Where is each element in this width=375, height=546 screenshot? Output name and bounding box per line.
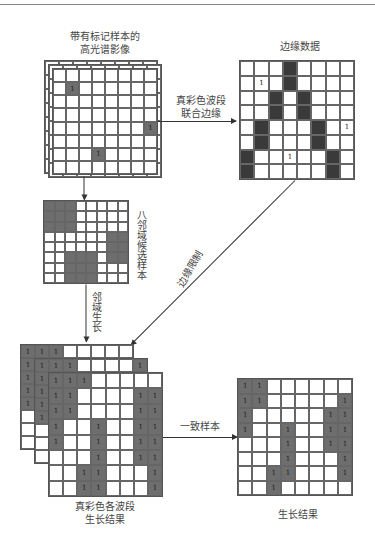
- grid-cell: [324, 394, 338, 409]
- grid-cell: [295, 379, 309, 394]
- grid-cell: 1: [134, 388, 148, 403]
- edge-arrow-label: 真彩色波段 联合边缘: [165, 94, 237, 120]
- bands-result-line1: 真彩色各波段: [40, 500, 170, 513]
- grid-cell: [66, 95, 79, 108]
- grid-cell: [134, 465, 148, 480]
- grid-cell: [283, 164, 297, 179]
- grid-cell: [252, 466, 266, 481]
- grid-cell: 1: [281, 466, 295, 481]
- grid-cell: [79, 122, 92, 135]
- grid-cell: [326, 105, 340, 120]
- grid-cell: 1: [133, 359, 147, 372]
- grid-cell: [120, 373, 134, 388]
- grid-cell: [283, 105, 297, 120]
- grid-cell: [120, 419, 134, 434]
- grid-cell: [118, 232, 129, 242]
- grid-cell: [91, 373, 105, 388]
- arrow-hsi-to-neighbor: [84, 177, 85, 200]
- grid-cell: [311, 76, 325, 91]
- grid-cell: [105, 161, 118, 174]
- grid-cell: 1: [340, 120, 354, 135]
- grid-cell: [65, 263, 76, 273]
- grid-cell: [105, 95, 118, 108]
- grid-cell: [295, 423, 309, 438]
- grid-cell: [53, 69, 66, 82]
- grid-cell: [254, 105, 268, 120]
- grid-cell: [35, 424, 49, 437]
- grid-cell: [53, 122, 66, 135]
- bands-result-title: 真彩色各波段 生长结果: [40, 500, 170, 526]
- grid-cell: [53, 95, 66, 108]
- grid-cell: [269, 105, 283, 120]
- grid-cell: [107, 252, 118, 262]
- grid-cell: [119, 359, 133, 372]
- grid-cell: 1: [238, 408, 252, 423]
- grid-cell: 1: [35, 398, 49, 411]
- grid-cell: [77, 419, 91, 434]
- grid-cell: [63, 450, 77, 465]
- grid-cell: 1: [49, 404, 63, 419]
- grid-cell: [44, 222, 55, 232]
- grid-cell: [66, 108, 79, 121]
- neighbor-grid: [43, 200, 129, 284]
- grid-cell: [324, 379, 338, 394]
- grid-cell: [254, 164, 268, 179]
- grid-cell: 1: [21, 397, 35, 410]
- grid-cell: 1: [49, 435, 63, 450]
- grid-cell: [86, 242, 97, 252]
- grid-cell: 1: [134, 419, 148, 434]
- grid-cell: [86, 232, 97, 242]
- grid-cell: [118, 95, 131, 108]
- grid-cell: [105, 108, 118, 121]
- grid-cell: [324, 452, 338, 467]
- grid-cell: [254, 120, 268, 135]
- grid-cell: [254, 150, 268, 165]
- region-growth-label: 邻域生长: [90, 292, 101, 332]
- grid-cell: [131, 122, 144, 135]
- grid-cell: [53, 135, 66, 148]
- grid-cell: 1: [63, 388, 77, 403]
- grid-cell: [326, 76, 340, 91]
- grid-cell: [309, 394, 323, 409]
- grid-cell: 1: [63, 373, 77, 388]
- grid-cell: [106, 388, 120, 403]
- grid-cell: [86, 273, 97, 283]
- grid-cell: [131, 108, 144, 121]
- grid-cell: [77, 359, 91, 372]
- grid-cell: [324, 466, 338, 481]
- grid-cell: 1: [21, 345, 35, 358]
- grid-cell: 1: [49, 388, 63, 403]
- grid-cell: [65, 252, 76, 262]
- grid-cell: 1: [134, 450, 148, 465]
- grid-cell: 1: [91, 465, 105, 480]
- grid-cell: [131, 148, 144, 161]
- grid-cell: [107, 273, 118, 283]
- grid-cell: [65, 232, 76, 242]
- grid-cell: [106, 419, 120, 434]
- grid-cell: [340, 61, 354, 76]
- grid-cell: [97, 252, 108, 262]
- edge-title: 边缘数据: [240, 40, 360, 53]
- grid-cell: [240, 135, 254, 150]
- grid-cell: [144, 108, 157, 121]
- grid-cell: [97, 222, 108, 232]
- grid-cell: [21, 410, 35, 423]
- grid-cell: [131, 161, 144, 174]
- grid-cell: [77, 388, 91, 403]
- grid-cell: 1: [338, 423, 352, 438]
- grid-cell: [92, 69, 105, 82]
- grid-cell: 1: [66, 82, 79, 95]
- grid-cell: [86, 252, 97, 262]
- grid-cell: 1: [324, 423, 338, 438]
- grid-cell: [53, 148, 66, 161]
- grid-cell: [340, 150, 354, 165]
- grid-cell: [105, 359, 119, 372]
- grid-cell: [49, 450, 63, 465]
- grid-cell: 1: [49, 419, 63, 434]
- grid-cell: 1: [148, 419, 162, 434]
- grid-cell: [134, 481, 148, 496]
- grid-cell: [77, 404, 91, 419]
- grid-cell: 1: [63, 359, 77, 372]
- grid-cell: [105, 345, 119, 358]
- grid-cell: [65, 242, 76, 252]
